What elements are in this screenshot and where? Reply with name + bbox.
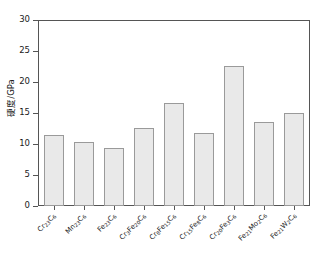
bar — [194, 133, 214, 206]
x-axis-tick-label: Fe21W2C6 — [269, 212, 298, 241]
bar — [224, 66, 244, 206]
x-axis-tick-mark — [294, 206, 295, 210]
x-axis-tick-label: Fe21Mo2C6 — [237, 212, 268, 243]
y-axis-title: 硬度/GPa — [4, 62, 16, 134]
y-axis-tick-label: 10 — [19, 138, 30, 148]
x-axis-tick-label: Cr3Fe20C6 — [118, 212, 148, 242]
y-axis-tick-label: 20 — [19, 76, 30, 86]
y-axis-tick-mark — [33, 144, 38, 145]
y-axis-tick-mark — [33, 20, 38, 21]
bar-series — [39, 20, 309, 206]
x-axis-tick-mark — [264, 206, 265, 210]
y-axis-tick-mark — [33, 113, 38, 114]
x-axis-tick-label: Cr23C6 — [36, 212, 58, 234]
y-axis-tick-label: 5 — [25, 169, 30, 179]
x-axis-tick-mark — [204, 206, 205, 210]
y-axis-tick-label: 0 — [25, 200, 30, 210]
bar — [284, 113, 304, 206]
bar — [134, 128, 154, 206]
y-axis-tick-mark — [33, 82, 38, 83]
bar — [254, 122, 274, 206]
bar — [104, 148, 124, 206]
x-axis-tick-mark — [234, 206, 235, 210]
x-axis-tick-mark — [174, 206, 175, 210]
x-axis-tick-label: Mn23C6 — [64, 212, 88, 236]
bar — [164, 103, 184, 206]
x-axis-tick-mark — [144, 206, 145, 210]
hardness-bar-chart-figure: 硬度/GPa 051015202530 Cr23C6Mn23C6Fe23C6Cr… — [0, 0, 319, 266]
x-axis-tick-mark — [114, 206, 115, 210]
bar — [44, 135, 64, 206]
y-axis-tick-label: 15 — [19, 107, 30, 117]
x-axis-tick-label: Cr8Fe15C6 — [148, 212, 178, 242]
y-axis-tick-label: 30 — [19, 14, 30, 24]
y-axis-tick-label: 25 — [19, 45, 30, 55]
y-axis-tick-mark — [33, 51, 38, 52]
x-axis-tick-label: Cr15Fe8C6 — [178, 212, 208, 242]
x-axis-tick-label: Fe23C6 — [96, 212, 118, 234]
x-axis-tick-mark — [54, 206, 55, 210]
x-axis-tick-mark — [84, 206, 85, 210]
y-axis-tick-mark — [33, 175, 38, 176]
y-axis-tick-mark — [33, 206, 38, 207]
bar — [74, 142, 94, 206]
x-axis-tick-label: Cr20Fe3C6 — [208, 212, 238, 242]
